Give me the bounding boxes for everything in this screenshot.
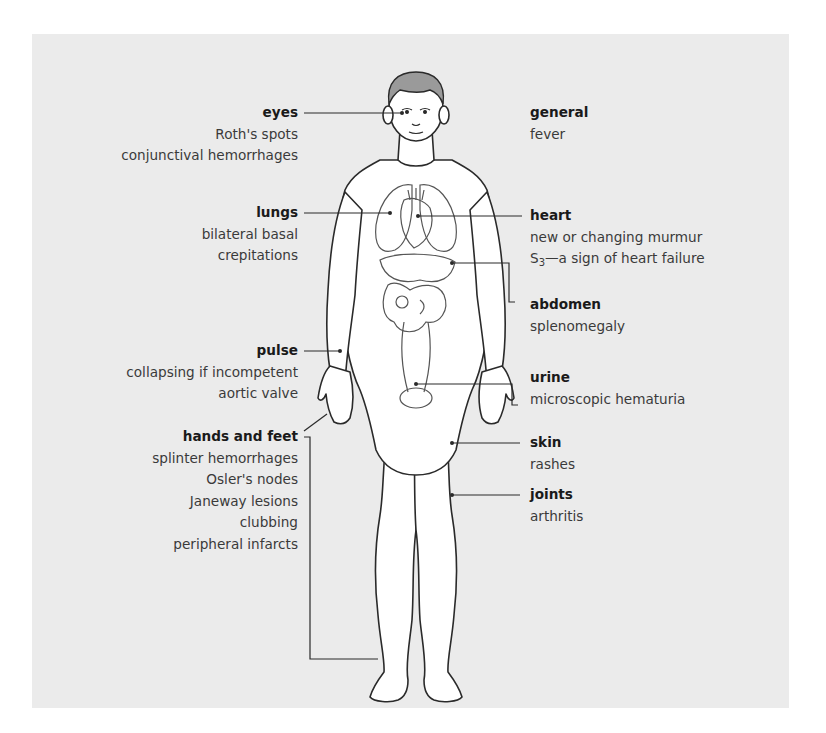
label-joints: joints arthritis bbox=[530, 484, 583, 527]
label-joints-item: arthritis bbox=[530, 506, 583, 528]
label-heart-item: new or changing murmur bbox=[530, 227, 705, 249]
label-eyes-item: conjunctival hemorrhages bbox=[121, 145, 298, 167]
label-lungs-title: lungs bbox=[202, 202, 298, 224]
label-urine-item: microscopic hematuria bbox=[530, 389, 685, 411]
label-urine-title: urine bbox=[530, 367, 685, 389]
label-joints-title: joints bbox=[530, 484, 583, 506]
s3-symbol: S bbox=[530, 250, 539, 266]
label-abdomen: abdomen splenomegaly bbox=[530, 294, 625, 337]
label-abdomen-item: splenomegaly bbox=[530, 316, 625, 338]
label-lungs: lungs bilateral basal crepitations bbox=[202, 202, 298, 267]
label-heart-title: heart bbox=[530, 205, 705, 227]
label-hands-and-feet-item: clubbing bbox=[152, 512, 298, 534]
label-pulse-item: collapsing if incompetent bbox=[126, 362, 298, 384]
label-eyes-title: eyes bbox=[121, 102, 298, 124]
label-heart: heart new or changing murmur S3—a sign o… bbox=[530, 205, 705, 270]
label-general-item: fever bbox=[530, 124, 588, 146]
label-skin-title: skin bbox=[530, 432, 575, 454]
label-urine: urine microscopic hematuria bbox=[530, 367, 685, 410]
label-general-title: general bbox=[530, 102, 588, 124]
label-lungs-item: crepitations bbox=[202, 245, 298, 267]
label-hands-and-feet-item: peripheral infarcts bbox=[152, 534, 298, 556]
label-abdomen-title: abdomen bbox=[530, 294, 625, 316]
label-hands-and-feet: hands and feet splinter hemorrhages Osle… bbox=[152, 426, 298, 555]
label-lungs-item: bilateral basal bbox=[202, 224, 298, 246]
label-skin: skin rashes bbox=[530, 432, 575, 475]
label-heart-item-s3: S3—a sign of heart failure bbox=[530, 248, 705, 270]
label-eyes: eyes Roth's spots conjunctival hemorrhag… bbox=[121, 102, 298, 167]
label-hands-and-feet-item: Osler's nodes bbox=[152, 469, 298, 491]
label-general: general fever bbox=[530, 102, 588, 145]
label-hands-and-feet-item: splinter hemorrhages bbox=[152, 448, 298, 470]
label-hands-and-feet-title: hands and feet bbox=[152, 426, 298, 448]
label-skin-item: rashes bbox=[530, 454, 575, 476]
label-hands-and-feet-item: Janeway lesions bbox=[152, 491, 298, 513]
label-pulse-title: pulse bbox=[126, 340, 298, 362]
label-pulse-item: aortic valve bbox=[126, 383, 298, 405]
label-pulse: pulse collapsing if incompetent aortic v… bbox=[126, 340, 298, 405]
label-eyes-item: Roth's spots bbox=[121, 124, 298, 146]
s3-text: —a sign of heart failure bbox=[545, 250, 705, 266]
